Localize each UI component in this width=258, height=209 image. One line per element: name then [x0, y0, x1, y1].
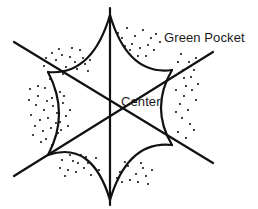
stipple-dot: [51, 52, 53, 54]
stipple-dot: [159, 41, 161, 43]
stipple-dot: [132, 157, 134, 159]
stipple-dot: [187, 109, 189, 111]
stipple-dot: [64, 175, 66, 177]
stipple-dot: [63, 95, 65, 97]
stipple-dot: [139, 47, 141, 49]
stipple-dot: [188, 61, 190, 63]
stipple-dot: [121, 181, 123, 183]
stipple-dot: [90, 174, 92, 176]
stipple-dot: [137, 181, 139, 183]
stipple-dot: [71, 47, 73, 49]
stipple-dot: [54, 89, 56, 91]
stipple-dot: [83, 167, 85, 169]
arc-upper-right-to-lower-right: [161, 70, 172, 145]
stipple-dot: [37, 85, 39, 87]
stipple-dot: [39, 119, 41, 121]
stipple-dot: [44, 87, 46, 89]
stipple-dot: [137, 55, 139, 57]
stipple-dot: [45, 57, 47, 59]
stipple-dot: [197, 83, 199, 85]
stipple-dot: [145, 55, 147, 57]
stipple-dot: [193, 129, 195, 131]
stipple-dot: [129, 179, 131, 181]
stipple-dot: [55, 59, 57, 61]
stipple-dot: [74, 61, 76, 63]
diagram-canvas: Green Pocket Center: [0, 0, 258, 209]
stipple-dot: [134, 35, 136, 37]
stipple-dot: [75, 171, 77, 173]
stipple-dot: [58, 48, 60, 50]
stipple-dot: [140, 162, 142, 164]
stipple-dot: [60, 129, 62, 131]
stipple-dot: [59, 167, 61, 169]
arc-bottom-to-lower-left: [48, 152, 110, 200]
stipple-dot: [181, 117, 183, 119]
stipple-dot: [195, 57, 197, 59]
stipple-dot: [185, 137, 187, 139]
stipple-dot: [129, 49, 131, 51]
stipple-dot: [30, 114, 32, 116]
stipple-dot: [50, 127, 52, 129]
stipple-dot: [126, 27, 128, 29]
stipple-dot: [28, 99, 30, 101]
stipple-dot: [46, 100, 48, 102]
stipple-dot: [67, 169, 69, 171]
stipple-dot: [150, 37, 152, 39]
stipple-dot: [119, 171, 121, 173]
stipple-dot: [79, 49, 81, 51]
stipple-dot: [37, 95, 39, 97]
stipple-dot: [72, 160, 74, 162]
label-green-pocket: Green Pocket: [164, 31, 245, 45]
stipple-dot: [65, 66, 67, 68]
stipple-dot: [179, 103, 181, 105]
stipple-dot: [177, 61, 179, 63]
stipple-dot: [183, 77, 185, 79]
stipple-dot: [35, 104, 37, 106]
stipple-dot: [147, 44, 149, 46]
stipple-dot: [59, 91, 61, 93]
stipple-dot: [55, 122, 57, 124]
stipple-dots-layer: [28, 27, 199, 185]
stipple-dot: [135, 173, 137, 175]
stipple-dot: [67, 125, 69, 127]
stipple-dot: [127, 165, 129, 167]
stipple-dot: [195, 99, 197, 101]
stipple-dot: [142, 167, 144, 169]
stipple-dot: [183, 95, 185, 97]
stipple-dot: [84, 63, 86, 65]
stipple-dot: [175, 89, 177, 91]
stipple-dot: [51, 144, 53, 146]
stipple-dot: [121, 37, 123, 39]
stipple-dot: [62, 73, 64, 75]
stipple-dot: [117, 32, 119, 34]
stipple-dot: [92, 165, 94, 167]
stipple-dot: [61, 54, 63, 56]
stipple-dot: [32, 134, 34, 136]
label-center: Center: [121, 95, 161, 109]
stipple-dot: [47, 117, 49, 119]
stipple-dot: [42, 130, 44, 132]
stipple-dot: [85, 156, 87, 158]
stipple-dot: [180, 53, 182, 55]
stipple-dot: [124, 161, 126, 163]
stipple-dot: [52, 105, 54, 107]
stipple-dot: [76, 68, 78, 70]
stipple-dot: [175, 111, 177, 113]
stipple-dot: [116, 177, 118, 179]
stipple-dot: [59, 121, 61, 123]
stipple-dot: [87, 162, 89, 164]
stipple-dot: [77, 162, 79, 164]
stipple-dot: [80, 154, 82, 156]
stipple-dot: [177, 131, 179, 133]
stipple-dot: [189, 123, 191, 125]
stipple-dot: [98, 169, 100, 171]
stipple-dot: [142, 29, 144, 31]
stipple-dot: [49, 78, 51, 80]
stipple-dot: [69, 56, 71, 58]
stipple-dot: [145, 175, 147, 177]
stipple-dot: [45, 138, 47, 140]
stipple-dot: [182, 69, 184, 71]
stipple-dot: [57, 132, 59, 134]
arc-top-to-upper-right: [110, 15, 172, 71]
arc-upper-left-to-top: [48, 15, 110, 72]
